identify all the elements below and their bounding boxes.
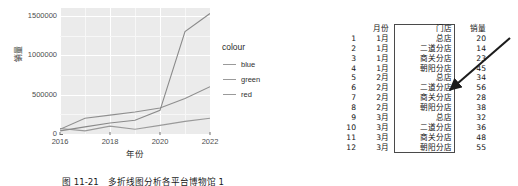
cell-month: 2月 [363, 83, 394, 93]
legend-title: colour [222, 42, 292, 52]
y-tick-label: 1000000 [11, 50, 57, 59]
cell-index: 7 [338, 93, 363, 103]
cell-month: 3月 [363, 113, 394, 123]
chart-panel [60, 8, 210, 134]
table-body: 11月总店2021月二道分店1431月商关分店2341月朝阳分店4552月总店3… [338, 34, 486, 153]
cell-sales: 55 [455, 143, 486, 153]
x-tick-mark [160, 132, 161, 135]
cell-store: 二道分店 [394, 83, 455, 93]
table-row: 21月二道分店14 [338, 44, 486, 54]
cell-store: 总店 [394, 73, 455, 83]
series-line-green [60, 87, 210, 130]
cell-store: 朝阳分店 [394, 143, 455, 153]
cell-sales: 38 [455, 103, 486, 113]
legend-key-icon [222, 89, 236, 100]
table-row: 103月二道分店36 [338, 123, 486, 133]
sales-table: 月份 门店 销量 11月总店2021月二道分店1431月商关分店2341月朝阳分… [338, 24, 486, 153]
series-line-red [60, 14, 210, 131]
figure-caption-left: 图 11-21多折线图分析各平台博物馆 1 [62, 175, 224, 186]
cell-month: 1月 [363, 64, 394, 74]
y-tick-label: 0 [11, 129, 57, 138]
cell-index: 5 [338, 73, 363, 83]
chart-legend: colour bluegreenred [222, 42, 292, 103]
cell-index: 1 [338, 34, 363, 44]
figure-page: 销量 050000010000001500000 201620182020202… [0, 0, 518, 186]
column-header-sales: 销量 [455, 24, 486, 34]
cell-sales: 56 [455, 83, 486, 93]
table-row: 41月朝阳分店45 [338, 64, 486, 74]
column-header-month: 月份 [363, 24, 394, 34]
legend-items: bluegreenred [222, 58, 292, 101]
table-row: 123月朝阳分店55 [338, 143, 486, 153]
legend-key-icon [222, 74, 236, 85]
column-header-store: 门店 [394, 24, 455, 34]
cell-sales: 20 [455, 34, 486, 44]
table-row: 31月商关分店23 [338, 54, 486, 64]
cell-month: 3月 [363, 123, 394, 133]
line-chart-figure: 销量 050000010000001500000 201620182020202… [0, 0, 330, 186]
legend-item-red[interactable]: red [222, 88, 292, 101]
table-row: 113月商关分店48 [338, 133, 486, 143]
legend-item-blue[interactable]: blue [222, 58, 292, 71]
cell-sales: 14 [455, 44, 486, 54]
legend-item-label: green [241, 75, 260, 84]
x-tick-mark [60, 132, 61, 135]
cell-store: 朝阳分店 [394, 103, 455, 113]
cell-sales: 34 [455, 73, 486, 83]
table-header-row: 月份 门店 销量 [338, 24, 486, 34]
cell-store: 二道分店 [394, 44, 455, 54]
cell-store: 商关分店 [394, 133, 455, 143]
cell-index: 12 [338, 143, 363, 153]
cell-month: 1月 [363, 44, 394, 54]
cell-index: 9 [338, 113, 363, 123]
table-row: 72月商关分店28 [338, 93, 486, 103]
cell-sales: 36 [455, 123, 486, 133]
cell-store: 商关分店 [394, 54, 455, 64]
cell-month: 2月 [363, 103, 394, 113]
cell-index: 10 [338, 123, 363, 133]
cell-store: 二道分店 [394, 123, 455, 133]
cell-month: 1月 [363, 34, 394, 44]
x-axis-title: 年份 [60, 147, 210, 159]
x-tick-label: 2022 [202, 137, 219, 146]
table-row: 52月总店34 [338, 73, 486, 83]
cell-index: 8 [338, 103, 363, 113]
legend-item-label: red [241, 90, 252, 99]
figure-caption-left-text: 多折线图分析各平台博物馆 1 [108, 177, 224, 186]
table-row: 93月总店32 [338, 113, 486, 123]
chart-plot-area: 销量 050000010000001500000 201620182020202… [0, 0, 330, 160]
legend-key-icon [222, 59, 236, 70]
x-tick-mark [110, 132, 111, 135]
cell-store: 朝阳分店 [394, 64, 455, 74]
y-tick-label: 1500000 [11, 11, 57, 20]
cell-sales: 32 [455, 113, 486, 123]
table-row: 11月总店20 [338, 34, 486, 44]
y-tick-label: 500000 [11, 90, 57, 99]
chart-series-lines [60, 8, 210, 134]
x-tick-label: 2016 [52, 137, 69, 146]
cell-index: 11 [338, 133, 363, 143]
legend-item-label: blue [241, 60, 255, 69]
cell-store: 商关分店 [394, 93, 455, 103]
table-row: 82月朝阳分店38 [338, 103, 486, 113]
cell-store: 总店 [394, 113, 455, 123]
cell-month: 3月 [363, 133, 394, 143]
legend-item-green[interactable]: green [222, 73, 292, 86]
cell-sales: 45 [455, 64, 486, 74]
y-axis-tick-labels: 050000010000001500000 [7, 0, 57, 140]
cell-month: 1月 [363, 54, 394, 64]
column-header-index [338, 24, 363, 34]
dataframe-output: 月份 门店 销量 11月总店2021月二道分店1431月商关分店2341月朝阳分… [338, 24, 486, 153]
dataframe-figure: 月份 门店 销量 11月总店2021月二道分店1431月商关分店2341月朝阳分… [330, 0, 518, 186]
x-tick-label: 2020 [152, 137, 169, 146]
x-tick-label: 2018 [102, 137, 119, 146]
figure-caption-left-number: 图 11-21 [62, 177, 99, 186]
cell-index: 6 [338, 83, 363, 93]
x-tick-mark [210, 132, 211, 135]
cell-index: 4 [338, 64, 363, 74]
cell-sales: 23 [455, 54, 486, 64]
cell-index: 3 [338, 54, 363, 64]
cell-sales: 28 [455, 93, 486, 103]
table-row: 62月二道分店56 [338, 83, 486, 93]
cell-store: 总店 [394, 34, 455, 44]
